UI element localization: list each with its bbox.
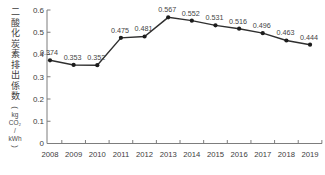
data-point-marker — [308, 43, 312, 47]
data-point-marker — [48, 58, 52, 62]
y-axis-title: 二酸化炭素排出係数 (kgCO₂/kWh) — [6, 7, 24, 150]
data-point-marker — [142, 34, 146, 38]
y-axis-unit-part: / — [14, 127, 16, 135]
y-tick-label: 0.1 — [33, 117, 45, 126]
y-axis-unit-part: CO₂ — [9, 119, 21, 127]
x-tick-label: 2018 — [278, 150, 295, 159]
y-axis-unit-part: ) — [12, 146, 19, 149]
y-axis-title-char: 出 — [11, 70, 20, 81]
y-axis-title-char: 排 — [11, 60, 20, 71]
data-point-label: 0.481 — [135, 24, 153, 33]
y-axis-unit-part: ( — [12, 106, 19, 109]
y-tick-label: 0.2 — [33, 95, 45, 104]
data-point-marker — [284, 38, 288, 42]
data-point-marker — [213, 23, 217, 27]
y-tick-label: 0.6 — [33, 6, 45, 15]
y-axis-title-char: 数 — [11, 91, 20, 102]
data-point-marker — [95, 63, 99, 67]
x-tick-label: 2016 — [231, 150, 248, 159]
y-axis-unit-part: kg — [12, 111, 19, 119]
data-point-label: 0.496 — [253, 21, 271, 30]
data-point-label: 0.531 — [205, 13, 223, 22]
co2-emission-coefficient-chart: 二酸化炭素排出係数 (kgCO₂/kWh) 00.10.20.30.40.50.… — [0, 0, 325, 175]
x-tick-label: 2017 — [254, 150, 271, 159]
data-point-label: 0.567 — [158, 5, 176, 14]
y-axis-unit-part: kWh — [9, 135, 22, 143]
x-tick-label: 2008 — [41, 150, 58, 159]
y-axis-title-char: 素 — [11, 49, 20, 60]
data-point-label: 0.374 — [40, 48, 58, 57]
y-axis-unit: (kgCO₂/kWh) — [9, 104, 22, 151]
y-axis-title-char: 酸 — [11, 18, 20, 29]
data-point-label: 0.444 — [300, 33, 318, 42]
line-chart: 00.10.20.30.40.50.6200820092010201120122… — [0, 0, 325, 175]
data-point-marker — [72, 63, 76, 67]
y-axis-title-text: 二酸化炭素排出係数 — [11, 7, 20, 102]
data-point-marker — [190, 19, 194, 23]
y-axis-title-char: 炭 — [11, 39, 20, 50]
y-tick-label: 0.3 — [33, 73, 45, 82]
data-point-marker — [166, 15, 170, 19]
x-tick-label: 2011 — [113, 150, 130, 159]
data-point-marker — [261, 31, 265, 35]
data-point-marker — [237, 27, 241, 31]
data-point-label: 0.552 — [182, 9, 200, 18]
x-tick-label: 2012 — [136, 150, 153, 159]
data-point-label: 0.353 — [64, 53, 82, 62]
y-axis-title-char: 二 — [11, 7, 20, 18]
data-point-label: 0.475 — [111, 26, 129, 35]
y-tick-label: 0 — [40, 139, 45, 148]
y-axis-title-char: 係 — [11, 81, 20, 92]
data-point-label: 0.463 — [276, 28, 294, 37]
x-tick-label: 2009 — [65, 150, 82, 159]
x-tick-label: 2010 — [89, 150, 106, 159]
x-tick-label: 2013 — [160, 150, 177, 159]
data-point-label: 0.352 — [87, 53, 105, 62]
data-point-marker — [119, 36, 123, 40]
x-tick-label: 2015 — [207, 150, 224, 159]
data-point-label: 0.516 — [229, 17, 247, 26]
x-tick-label: 2019 — [301, 150, 318, 159]
x-tick-label: 2014 — [183, 150, 201, 159]
y-axis-title-char: 化 — [11, 28, 20, 39]
y-tick-label: 0.5 — [33, 28, 45, 37]
